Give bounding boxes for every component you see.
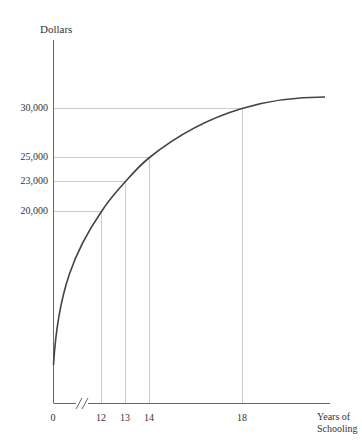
x-axis-label: Years of Schooling [317,411,358,435]
y-tick-20000: 20,000 [0,205,48,216]
x-tick-14: 14 [139,412,159,423]
y-tick-23000: 23,000 [0,175,48,186]
y-axis-label: Dollars [40,23,72,35]
earnings-curve [54,97,326,365]
x-axis-label-line1: Years of [317,411,358,423]
x-axis-label-line2: Schooling [317,423,358,435]
x-tick-13: 13 [115,412,135,423]
x-tick-18: 18 [232,412,252,423]
y-tick-25000: 25,000 [0,151,48,162]
chart-canvas [0,0,362,448]
x-tick-0: 0 [43,412,63,423]
axis-break-icon [76,398,88,409]
reference-lines [54,108,243,403]
x-tick-12: 12 [91,412,111,423]
y-tick-30000: 30,000 [0,102,48,113]
